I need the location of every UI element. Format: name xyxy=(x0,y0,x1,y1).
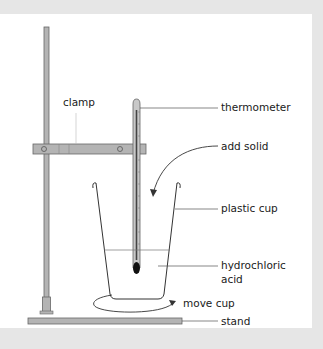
label-hydrochloric: hydrochloric xyxy=(221,259,286,272)
label-thermometer: thermometer xyxy=(221,101,291,114)
label-plastic-cup: plastic cup xyxy=(221,202,278,215)
label-clamp: clamp xyxy=(63,96,95,109)
stand-base xyxy=(28,318,182,324)
apparatus-diagram xyxy=(0,0,323,349)
label-stand: stand xyxy=(221,315,250,328)
label-move-cup: move cup xyxy=(183,297,235,310)
clamp xyxy=(33,144,146,154)
add-solid-arrow-icon xyxy=(150,146,218,197)
label-acid: acid xyxy=(221,273,243,286)
thermometer xyxy=(133,99,140,274)
thermometer-bulb xyxy=(133,262,140,274)
move-cup-swirl-icon xyxy=(94,295,176,312)
label-add-solid: add solid xyxy=(221,140,269,153)
stand-rod xyxy=(40,27,53,314)
